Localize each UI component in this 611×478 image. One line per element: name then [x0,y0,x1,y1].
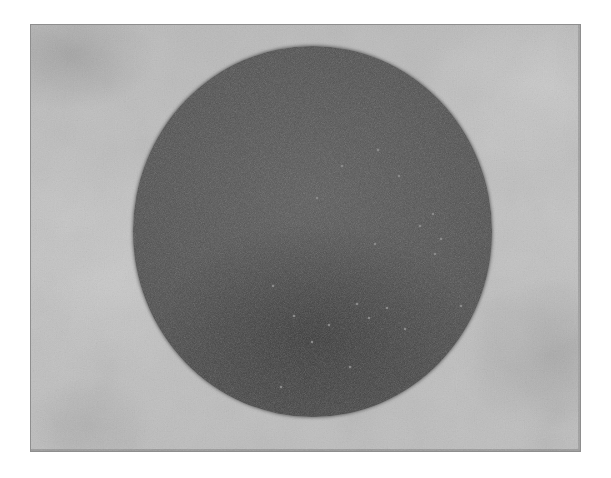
speckle [432,213,435,216]
speckle [316,197,319,200]
photograph [30,24,581,452]
speckle [404,328,407,331]
speckle [398,175,401,178]
speckle [293,315,296,318]
speckle [280,386,283,389]
speckle [419,225,422,228]
speckle [349,366,352,369]
speckle [272,285,275,288]
speckle [386,307,389,310]
speckle [374,243,377,246]
speckle [341,165,344,168]
speckle [368,317,371,320]
speckle [440,238,443,241]
speckle [328,324,331,327]
speckle [377,149,380,152]
speckle [356,303,359,306]
image-canvas [0,0,611,478]
speckle [460,305,463,308]
dark-disc [133,46,492,417]
speckle [311,341,314,344]
disc-texture [133,46,492,417]
speckle [434,253,437,256]
